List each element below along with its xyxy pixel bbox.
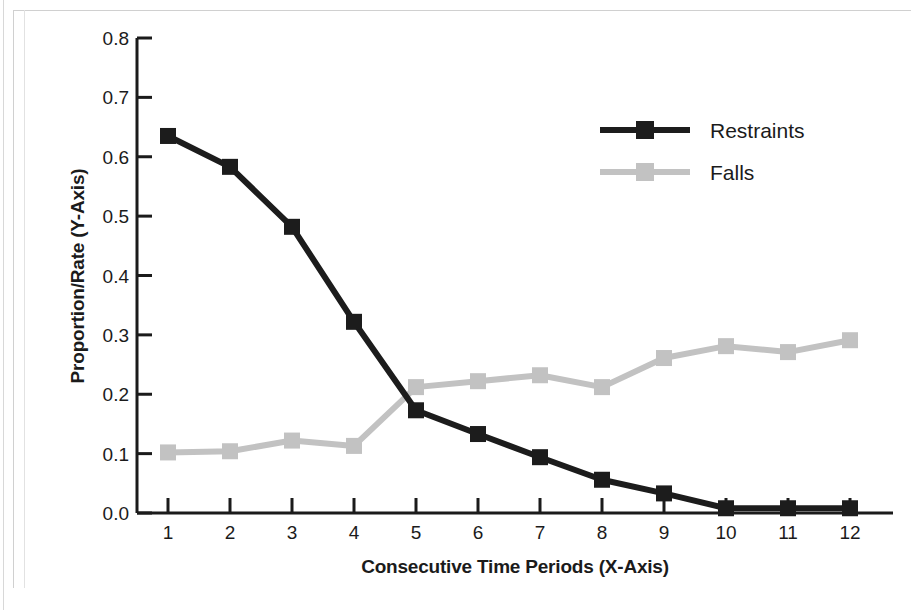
series-restraints — [160, 128, 858, 516]
legend-entry-restraints: Restraints — [600, 119, 805, 142]
x-axis-title: Consecutive Time Periods (X-Axis) — [361, 556, 669, 577]
data-point-marker — [222, 159, 238, 175]
data-point-marker — [284, 433, 300, 449]
series-layer — [160, 128, 858, 516]
legend-marker-falls — [636, 163, 654, 181]
data-point-marker — [222, 443, 238, 459]
x-tick-label-9: 9 — [659, 522, 670, 543]
data-point-marker — [408, 379, 424, 395]
data-point-marker — [408, 402, 424, 418]
line-chart: 0.00.10.20.30.40.50.60.70.8 123456789101… — [0, 0, 915, 610]
y-axis-tick-labels: 0.00.10.20.30.40.50.60.70.8 — [103, 28, 130, 524]
y-axis-ticks — [137, 38, 152, 513]
y-tick-label-0.4: 0.4 — [103, 266, 130, 287]
series-line-falls — [168, 340, 850, 452]
data-point-marker — [594, 379, 610, 395]
x-tick-label-5: 5 — [411, 522, 422, 543]
x-tick-label-6: 6 — [473, 522, 484, 543]
x-tick-label-7: 7 — [535, 522, 546, 543]
figure-caption — [40, 596, 890, 610]
x-tick-label-11: 11 — [778, 522, 798, 543]
y-tick-label-0.8: 0.8 — [103, 28, 129, 49]
data-point-marker — [346, 438, 362, 454]
data-point-marker — [594, 472, 610, 488]
data-point-marker — [160, 128, 176, 144]
x-tick-label-8: 8 — [597, 522, 608, 543]
x-tick-label-2: 2 — [225, 522, 236, 543]
legend-label-restraints: Restraints — [710, 119, 805, 142]
data-point-marker — [718, 500, 734, 516]
data-point-marker — [842, 332, 858, 348]
x-tick-label-1: 1 — [163, 522, 174, 543]
data-point-marker — [532, 449, 548, 465]
data-point-marker — [656, 350, 672, 366]
data-point-marker — [284, 219, 300, 235]
y-tick-label-0.6: 0.6 — [103, 147, 129, 168]
x-tick-label-3: 3 — [287, 522, 298, 543]
data-point-marker — [718, 338, 734, 354]
chart-legend: RestraintsFalls — [600, 119, 805, 184]
series-line-restraints — [168, 136, 850, 508]
data-point-marker — [842, 500, 858, 516]
data-point-marker — [532, 367, 548, 383]
data-point-marker — [346, 314, 362, 330]
legend-entry-falls: Falls — [600, 161, 754, 184]
y-tick-label-0.5: 0.5 — [103, 206, 129, 227]
data-point-marker — [656, 485, 672, 501]
legend-label-falls: Falls — [710, 161, 754, 184]
data-point-marker — [470, 426, 486, 442]
series-falls — [160, 332, 858, 460]
y-tick-label-0.3: 0.3 — [103, 325, 129, 346]
legend-marker-restraints — [636, 121, 654, 139]
data-point-marker — [780, 500, 796, 516]
data-point-marker — [470, 373, 486, 389]
x-tick-label-12: 12 — [839, 522, 860, 543]
x-tick-label-4: 4 — [349, 522, 360, 543]
y-tick-label-0.1: 0.1 — [103, 444, 129, 465]
data-point-marker — [780, 344, 796, 360]
y-tick-label-0.2: 0.2 — [103, 384, 129, 405]
figure-root: 0.00.10.20.30.40.50.60.70.8 123456789101… — [0, 0, 915, 610]
y-tick-label-0.0: 0.0 — [103, 503, 129, 524]
x-axis-tick-labels: 123456789101112 — [163, 522, 861, 543]
y-tick-label-0.7: 0.7 — [103, 87, 129, 108]
data-point-marker — [160, 444, 176, 460]
y-axis-title: Proportion/Rate (Y-Axis) — [67, 169, 88, 384]
x-tick-label-10: 10 — [715, 522, 736, 543]
